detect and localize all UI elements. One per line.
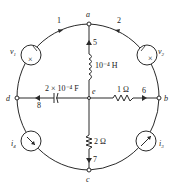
inductor-value: 10⁻⁴ H	[95, 61, 118, 70]
resistor-6-icon	[113, 95, 133, 101]
svg-text:×: ×	[28, 55, 33, 64]
node-e-label: e	[92, 87, 96, 96]
v2-label: v2	[158, 47, 165, 57]
branch-5-label: 5	[93, 38, 97, 47]
circuit-diagram: × × a b c d e 1 2 5 6 7 8 10⁻⁴ H 2 × 10⁻…	[0, 0, 173, 189]
capacitor-icon	[54, 93, 60, 103]
i3-label: i3	[159, 139, 164, 149]
branch-8-label: 8	[37, 101, 41, 110]
current-source-i3-icon	[136, 131, 156, 151]
voltage-source-v2-icon: ×	[137, 45, 157, 65]
node-e	[88, 97, 91, 100]
capacitor-value: 2 × 10⁻⁴ F	[45, 84, 79, 93]
node-d-label: d	[6, 94, 11, 103]
resistor-7-value: 2 Ω	[94, 137, 106, 146]
node-a-label: a	[86, 10, 90, 19]
i4-label: i4	[11, 139, 16, 149]
node-d	[15, 96, 19, 100]
branch-6-label: 6	[142, 86, 146, 95]
resistor-7-icon	[86, 135, 92, 149]
branch-1-label: 1	[57, 16, 61, 25]
node-c-label: c	[86, 175, 90, 184]
current-source-i4-icon	[21, 131, 41, 151]
v1-label: v1	[10, 47, 16, 57]
inductor-icon	[89, 54, 92, 80]
svg-text:×: ×	[148, 54, 153, 63]
resistor-6-value: 1 Ω	[117, 85, 129, 94]
arrow-branch-6-icon	[142, 95, 147, 101]
node-b	[157, 96, 161, 100]
arrow-branch-7-icon	[86, 158, 92, 163]
branch-2-label: 2	[117, 16, 121, 25]
voltage-source-v1-icon: ×	[21, 45, 41, 65]
arrow-branch-5-icon	[86, 40, 92, 45]
node-a	[87, 22, 91, 26]
branch-7-label: 7	[93, 155, 97, 164]
node-c	[87, 168, 91, 172]
node-b-label: b	[164, 94, 168, 103]
